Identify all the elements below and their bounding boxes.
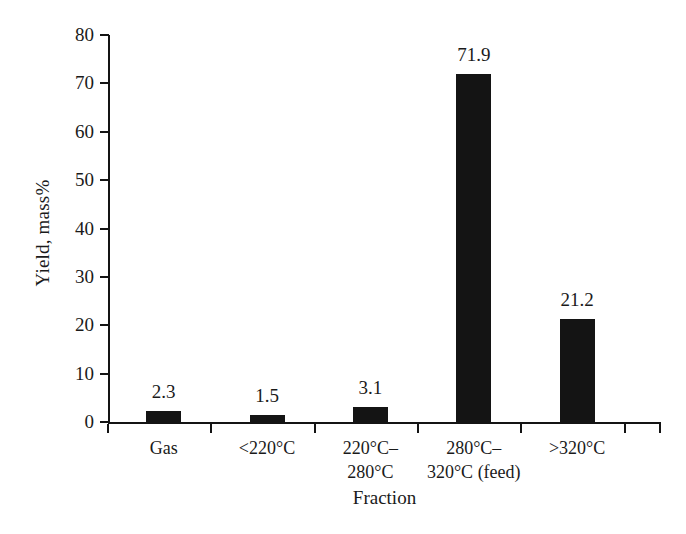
y-axis-tick-label: 80	[48, 25, 94, 44]
x-axis-line	[108, 422, 661, 424]
y-axis-tick-label: 60	[48, 122, 94, 141]
bar-value-label: 3.1	[310, 378, 430, 397]
y-axis-tick-label: 40	[48, 219, 94, 238]
x-axis-tick	[314, 424, 316, 433]
y-axis-tick	[100, 34, 109, 36]
y-axis-tick	[100, 131, 109, 133]
bar	[353, 407, 388, 422]
x-axis-tick	[624, 424, 626, 433]
y-axis-tick-label: 30	[48, 267, 94, 286]
x-axis-tick	[417, 424, 419, 433]
y-axis-tick	[100, 179, 109, 181]
bar-value-label: 21.2	[517, 290, 637, 309]
bar-value-label: 2.3	[104, 382, 224, 401]
x-axis-tick	[520, 424, 522, 433]
y-axis-tick	[100, 276, 109, 278]
x-axis-tick-label-line: >320°C	[507, 436, 647, 460]
y-axis-tick-label: 10	[48, 364, 94, 383]
y-axis-tick	[100, 228, 109, 230]
bar	[146, 411, 181, 422]
x-axis-tick-label: >320°C	[507, 436, 647, 460]
y-axis-tick-label: 70	[48, 73, 94, 92]
bar	[456, 74, 491, 422]
y-axis-tick	[100, 421, 109, 423]
bar-chart: Yield, mass% 01020304050607080 2.31.53.1…	[0, 0, 686, 534]
x-axis-tick	[210, 424, 212, 433]
bar-value-label: 71.9	[414, 45, 534, 64]
y-axis-tick	[100, 82, 109, 84]
x-axis-tick	[107, 424, 109, 433]
y-axis-tick	[100, 373, 109, 375]
x-axis-tick	[659, 424, 661, 433]
bar	[250, 415, 285, 422]
y-axis-tick	[100, 324, 109, 326]
y-axis-tick-label: 0	[48, 412, 94, 431]
bar	[560, 319, 595, 422]
x-axis-tick-label-line: 320°C (feed)	[404, 460, 544, 484]
y-axis-tick-label: 50	[48, 170, 94, 189]
bar-value-label: 1.5	[207, 386, 327, 405]
y-axis-line	[108, 35, 110, 424]
x-axis-title: Fraction	[108, 487, 661, 509]
y-axis-tick-label: 20	[48, 315, 94, 334]
